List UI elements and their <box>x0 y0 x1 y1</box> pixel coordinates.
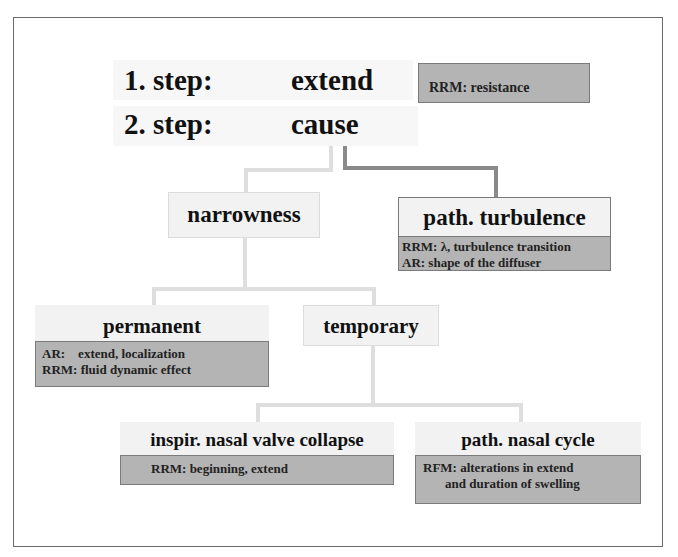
note-line: RRM: λ, turbulence transition <box>402 239 610 255</box>
node-path-nasal-cycle-notes: RFM: alterations in extend and duration … <box>415 455 641 504</box>
connector-cause-turbulence-h <box>343 166 498 170</box>
step-2-value: cause <box>291 110 359 139</box>
connector-temporary-v <box>371 346 375 406</box>
connector-temporary-h <box>256 403 523 407</box>
connector-cause-turbulence-v2 <box>494 166 498 198</box>
connector-narrowness-temporary <box>372 287 376 306</box>
connector-narrowness-h <box>152 287 376 291</box>
node-permanent-notes: AR: extend, localization RRM: fluid dyna… <box>35 341 269 387</box>
node-permanent-title: permanent <box>35 314 269 339</box>
note-line: and duration of swelling <box>423 476 640 492</box>
note-line: RFM: alterations in extend <box>423 460 640 476</box>
note-line: AR: shape of the diffuser <box>402 255 610 271</box>
node-inspir-header: inspir. nasal valve collapse <box>120 422 394 455</box>
note-line: RRM: beginning, extend <box>151 461 393 477</box>
node-path-turbulence-title: path. turbulence <box>399 205 610 231</box>
node-path-nasal-cycle-header: path. nasal cycle <box>415 422 641 455</box>
step-1-note-box: RRM: resistance <box>418 63 590 103</box>
node-path-turbulence-header: path. turbulence <box>399 198 610 236</box>
node-inspir-notes: RRM: beginning, extend <box>120 455 394 485</box>
note-line: AR: extend, localization <box>42 346 268 362</box>
node-path-turbulence: path. turbulence RRM: λ, turbulence tran… <box>398 197 611 271</box>
node-path-nasal-cycle-title: path. nasal cycle <box>415 429 641 451</box>
node-temporary: temporary <box>303 305 439 346</box>
step-2-label: 2. step: <box>124 110 213 139</box>
node-path-nasal-cycle: path. nasal cycle RFM: alterations in ex… <box>415 422 641 504</box>
connector-cause-narrowness-v2 <box>244 168 248 193</box>
node-path-turbulence-notes: RRM: λ, turbulence transition AR: shape … <box>399 236 610 270</box>
connector-narrowness-permanent <box>152 287 156 306</box>
note-line: RRM: fluid dynamic effect <box>42 362 268 378</box>
connector-temporary-cycle <box>519 403 523 423</box>
node-temporary-title: temporary <box>304 314 438 339</box>
step-1-value: extend <box>291 66 373 95</box>
step-1-label: 1. step: <box>124 66 213 95</box>
connector-temporary-inspir <box>256 403 260 423</box>
connector-narrowness-v <box>243 238 247 290</box>
node-permanent-header: permanent <box>35 305 269 341</box>
connector-cause-narrowness-h <box>244 168 333 172</box>
step-1-note: RRM: resistance <box>429 80 529 95</box>
node-permanent: permanent AR: extend, localization RRM: … <box>35 305 269 387</box>
node-inspir-title: inspir. nasal valve collapse <box>120 429 394 451</box>
node-narrowness-title: narrowness <box>169 202 319 228</box>
node-inspir-nasal-valve-collapse: inspir. nasal valve collapse RRM: beginn… <box>120 422 394 485</box>
node-narrowness: narrowness <box>168 192 320 238</box>
